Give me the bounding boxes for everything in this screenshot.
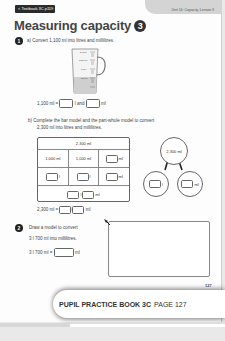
page-number: 127	[205, 283, 212, 288]
measuring-jug-icon: 2 litres 1,500 ml 1 litre 500 ml	[68, 47, 108, 95]
part-whole-part-1: l	[143, 171, 169, 197]
question-1-number: 1	[15, 37, 23, 45]
q1b-ml-input[interactable]	[72, 206, 84, 214]
q1b-prompt-line2: 2,300 ml into litres and millilitres.	[37, 125, 102, 130]
drawing-area[interactable]	[108, 221, 210, 277]
q1a-ml-input[interactable]	[86, 99, 100, 108]
bar-model-whole: 2,300 ml	[38, 138, 129, 149]
q1b-answer-line: 2,300 ml = l ml	[37, 206, 90, 214]
q2-ml-input[interactable]	[54, 248, 74, 257]
q1b-prompt-line1: b) Complete the bar model and the part-w…	[28, 118, 154, 123]
textbook-link[interactable]: < Textbook 3C p119	[15, 5, 55, 13]
book-page-badge: PUPIL PRACTICE BOOK 3C PAGE 127	[53, 290, 225, 318]
bar-model: 2,300 ml 1,000 ml 1,000 ml ml l l ml l m…	[37, 137, 130, 202]
bar-model-row-2: 1,000 ml 1,000 ml ml	[38, 150, 129, 168]
part-whole-input[interactable]	[149, 180, 161, 188]
bar-model-input[interactable]	[106, 155, 118, 163]
bottom-strip-right	[70, 323, 225, 327]
bar-model-input[interactable]	[77, 173, 89, 181]
q2-line2: 3 l 700 ml into millilitres.	[29, 236, 77, 241]
bar-model-row-3: l l ml	[38, 168, 129, 186]
unit-label: Unit 14: Capacity, Lesson 3	[145, 0, 222, 14]
part-whole-part-2: ml	[177, 171, 203, 197]
lesson-number-icon: 3	[134, 20, 146, 32]
q1a-litres-input[interactable]	[59, 99, 73, 108]
book-title: PUPIL PRACTICE BOOK 3C	[59, 301, 151, 308]
bar-model-whole-row: 2,300 ml	[38, 138, 129, 150]
q1a-prompt: a) Convert 1,100 ml into litres and mill…	[27, 38, 114, 43]
q2-answer-line: 3 l 700 ml = ml	[29, 248, 80, 257]
workbook-page: < Textbook 3C p119 Unit 14: Capacity, Le…	[0, 0, 222, 322]
pencil-icon	[103, 218, 111, 226]
svg-text:500 ml: 500 ml	[81, 77, 88, 79]
bar-model-input[interactable]	[46, 173, 58, 181]
svg-text:1 litre: 1 litre	[81, 68, 87, 70]
bar-model-row-4: l ml	[38, 186, 129, 203]
bar-model-input[interactable]	[67, 191, 79, 199]
title-text: Measuring capacity	[14, 18, 131, 33]
bar-model-input[interactable]	[106, 173, 118, 181]
q1a-answer-line: 1,100 ml = l and ml	[37, 99, 106, 108]
part-whole-input[interactable]	[181, 180, 193, 188]
question-2-number: 2	[15, 224, 23, 232]
svg-text:2 litres: 2 litres	[80, 51, 87, 53]
part-whole-whole: 2,300 ml	[160, 137, 188, 165]
q1b-litres-input[interactable]	[59, 206, 71, 214]
bottom-strip	[0, 323, 70, 327]
page-title: Measuring capacity3	[14, 18, 146, 33]
book-page: PAGE 127	[154, 301, 187, 308]
bar-model-input[interactable]	[82, 191, 94, 199]
q2-line1: Draw a model to convert	[29, 225, 78, 230]
